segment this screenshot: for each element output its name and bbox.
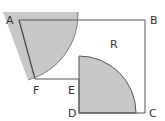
quarter-circle-sector (79, 56, 136, 113)
label-A: A (6, 14, 14, 27)
geometry-diagram: A B R F E D C (0, 0, 165, 121)
diagram-svg: A B R F E D C (0, 0, 165, 121)
label-E: E (68, 84, 75, 97)
label-R: R (110, 38, 118, 51)
large-shaded-sector (3, 12, 78, 80)
label-B: B (150, 14, 158, 27)
label-C: C (149, 107, 157, 120)
label-F: F (33, 84, 39, 97)
label-D: D (68, 107, 76, 120)
